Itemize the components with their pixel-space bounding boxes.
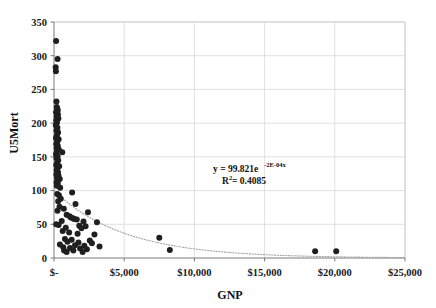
data-point	[53, 38, 59, 44]
y-tick-label: 250	[31, 84, 47, 95]
equation-exponent: -2E-04x	[264, 161, 286, 168]
x-tick-label: $10,000	[177, 267, 211, 278]
y-tick-label: 350	[31, 17, 47, 28]
data-point	[72, 242, 78, 248]
chart-canvas: $-$5,000$10,000$15,000$20,000$25,000 050…	[0, 0, 436, 308]
data-point	[72, 201, 78, 207]
x-tick-label: $15,000	[248, 267, 282, 278]
y-tick-label: 50	[37, 219, 48, 230]
data-point	[85, 209, 91, 215]
data-point	[312, 248, 318, 254]
data-point	[69, 190, 75, 196]
data-point	[61, 206, 67, 212]
data-point	[55, 208, 61, 214]
data-point	[156, 235, 162, 241]
y-tick-label: 100	[31, 185, 47, 196]
data-point	[91, 231, 97, 237]
scatter-chart: $-$5,000$10,000$15,000$20,000$25,000 050…	[0, 0, 436, 308]
y-axis-title: U5Mort	[7, 112, 21, 153]
data-point	[78, 225, 84, 231]
y-tick-label: 150	[31, 152, 47, 163]
data-point	[89, 240, 95, 246]
data-point	[53, 99, 59, 105]
data-point	[56, 222, 62, 228]
data-point	[64, 249, 70, 255]
chart-background	[0, 0, 436, 308]
data-point	[53, 68, 59, 74]
y-tick-label: 200	[31, 118, 47, 129]
data-point	[70, 248, 76, 254]
x-tick-label: $-	[50, 267, 59, 278]
data-point	[167, 247, 173, 253]
data-point	[59, 149, 65, 155]
data-point	[74, 217, 80, 223]
x-tick-label: $5,000	[110, 267, 139, 278]
data-point	[57, 185, 63, 191]
data-point	[64, 239, 70, 245]
y-tick-label: 300	[31, 51, 47, 62]
x-tick-label: $20,000	[318, 267, 352, 278]
data-point	[96, 244, 102, 250]
data-point	[333, 248, 339, 254]
data-point	[80, 249, 86, 255]
equation-text: y = 99.821e	[213, 164, 258, 174]
r-squared-value: = 0.4085	[232, 176, 266, 186]
x-tick-label: $25,000	[388, 267, 422, 278]
r-squared-label: R	[222, 176, 229, 186]
y-tick-label: 0	[42, 253, 47, 264]
data-point	[94, 219, 100, 225]
data-point	[60, 228, 66, 234]
data-point	[55, 56, 61, 62]
data-point	[75, 231, 81, 237]
data-point	[66, 229, 72, 235]
data-point	[55, 198, 61, 204]
x-axis-title: GNP	[217, 288, 242, 302]
